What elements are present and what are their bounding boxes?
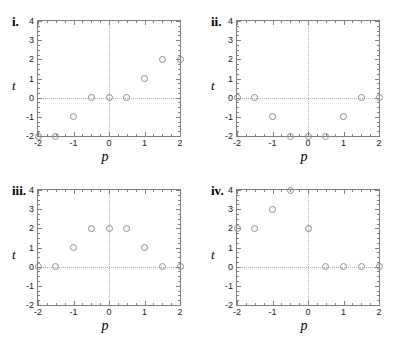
x-tick [273,301,274,305]
x-minor-tick [91,303,92,305]
x-minor-tick [47,303,48,305]
y-tick-label: 0 [29,262,34,272]
y-minor-tick [38,224,40,225]
x-tick [74,21,75,25]
y-minor-tick [38,31,40,32]
x-minor-tick [246,134,247,136]
y-tick [237,209,241,210]
plot-axes: -2-1012-2-101234 [37,20,181,137]
y-tick [375,21,379,22]
y-minor-tick [377,257,379,258]
y-minor-tick [178,214,180,215]
x-minor-tick [56,303,57,305]
x-minor-tick [264,134,265,136]
y-minor-tick [377,112,379,113]
data-point-marker [70,113,77,120]
x-tick [308,21,309,25]
y-minor-tick [38,93,40,94]
x-minor-tick [82,190,83,192]
y-tick-label: -1 [225,112,233,122]
x-minor-tick [118,303,119,305]
x-tick-label: -1 [268,138,276,148]
y-minor-tick [237,233,239,234]
y-minor-tick [38,291,40,292]
y-minor-tick [178,107,180,108]
y-minor-tick [38,238,40,239]
x-tick [379,301,380,305]
x-tick [180,190,181,194]
y-tick-label: 4 [29,16,34,26]
y-minor-tick [38,214,40,215]
y-minor-tick [377,64,379,65]
x-tick-label: -2 [233,307,241,317]
y-minor-tick [178,69,180,70]
x-minor-tick [317,21,318,23]
x-minor-tick [47,21,48,23]
x-minor-tick [47,134,48,136]
y-tick [375,79,379,80]
y-axis-label: t [12,78,16,94]
y-minor-tick [38,257,40,258]
panel-ii: ii. t p -2-1012-2-101234 [199,0,398,169]
y-minor-tick [178,200,180,201]
data-point-marker [305,225,312,232]
panel-label: iv. [211,183,224,199]
y-minor-tick [377,107,379,108]
y-minor-tick [377,45,379,46]
y-minor-tick [237,55,239,56]
x-tick [379,132,380,136]
x-minor-tick [65,190,66,192]
y-minor-tick [38,69,40,70]
x-minor-tick [136,21,137,23]
panel-iii: iii. t p -2-1012-2-101234 [0,169,199,338]
y-tick [375,40,379,41]
y-minor-tick [38,252,40,253]
x-minor-tick [153,134,154,136]
y-minor-tick [178,224,180,225]
plot-axes: -2-1012-2-101234 [236,189,380,306]
x-tick [180,301,181,305]
y-minor-tick [178,126,180,127]
x-minor-tick [281,21,282,23]
x-tick-label: 0 [106,307,111,317]
y-minor-tick [377,271,379,272]
y-minor-tick [178,93,180,94]
data-point-marker [70,244,77,251]
y-minor-tick [237,291,239,292]
x-minor-tick [335,21,336,23]
x-minor-tick [255,190,256,192]
y-minor-tick [377,31,379,32]
y-minor-tick [237,271,239,272]
panel-i: i. t p -2-1012-2-101234 [0,0,199,169]
y-minor-tick [237,200,239,201]
y-tick [237,286,241,287]
y-minor-tick [38,50,40,51]
plot-axes: -2-1012-2-101234 [37,189,181,306]
x-minor-tick [127,21,128,23]
y-minor-tick [237,126,239,127]
data-point-marker [52,263,59,270]
y-minor-tick [237,45,239,46]
x-tick-label: 0 [106,138,111,148]
y-tick-label: 0 [29,93,34,103]
y-minor-tick [178,26,180,27]
x-tick-label: 2 [376,307,381,317]
y-minor-tick [38,45,40,46]
y-minor-tick [237,214,239,215]
y-minor-tick [237,88,239,89]
x-tick [74,190,75,194]
x-minor-tick [299,134,300,136]
x-axis-label: p [301,318,308,334]
y-minor-tick [237,50,239,51]
y-minor-tick [237,74,239,75]
x-minor-tick [290,303,291,305]
x-minor-tick [56,190,57,192]
y-minor-tick [178,204,180,205]
x-minor-tick [118,134,119,136]
x-minor-tick [246,303,247,305]
x-minor-tick [136,190,137,192]
data-point-marker [141,75,148,82]
x-minor-tick [171,190,172,192]
y-minor-tick [178,252,180,253]
x-minor-tick [153,21,154,23]
